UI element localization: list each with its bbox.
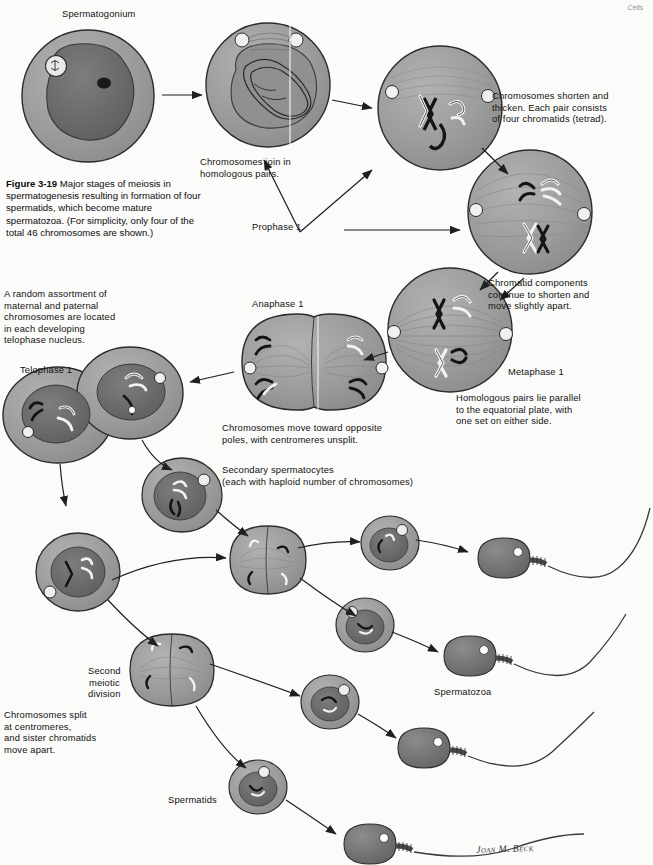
spermatid-1 [361, 516, 419, 570]
figure-caption: Figure 3-19 Major stages of meiosis in s… [6, 178, 202, 239]
arrow-spermatocyte-b-to-division-a [112, 557, 226, 580]
spermatozoon-1 [478, 508, 650, 578]
label-chromosomes-join: Chromosomes join in homologous pairs. [200, 156, 291, 179]
arrow-division-b-to-spermatid-4 [196, 706, 246, 768]
cell-secondary-spermatocyte-a [142, 458, 222, 532]
spermatozoon-3 [398, 712, 594, 768]
arrow-telophase-to-spermatocyte-b [60, 464, 66, 506]
label-metaphase-1: Metaphase 1 [508, 366, 564, 378]
arrow-division-a-to-spermatid-2 [300, 578, 356, 616]
label-chromosomes-split: Chromosomes split at centromeres, and si… [4, 709, 96, 755]
label-secondary-spermatocytes: Secondary spermatocytes (each with haplo… [222, 464, 413, 487]
label-spermatozoa: Spermatozoa [434, 686, 491, 698]
label-chromosomes-shorten: Chromosomes shorten and thicken. Each pa… [492, 90, 609, 125]
label-second-meiotic-division: Second meiotic division [88, 665, 121, 700]
label-spermatids: Spermatids [168, 794, 217, 806]
cell-spermatogonium [22, 30, 154, 162]
cell-anaphase1 [242, 314, 388, 410]
cell-secondary-spermatocyte-b [36, 533, 120, 611]
arrow-spermatid-1-to-spermatozoon-1 [416, 540, 468, 552]
cell-prophase1-early [206, 23, 330, 147]
label-spermatogonium: Spermatogonium [62, 8, 136, 20]
label-random-assortment: A random assortment of maternal and pate… [4, 288, 115, 346]
label-homologous-pairs: Homologous pairs lie parallel to the equ… [456, 392, 581, 427]
label-anaphase-1: Anaphase 1 [252, 298, 304, 310]
spermatozoon-4 [344, 824, 584, 864]
arrow-anaphase-to-telophase [190, 372, 234, 382]
figure-page: Cells Spermatogonium Figure 3-19 Major s… [0, 0, 653, 865]
spermatozoon-2 [444, 614, 626, 676]
cell-prophase1-tetrad [378, 46, 502, 170]
figure-number: Figure 3-19 [6, 178, 57, 189]
arrow-prophase-early-to-tetrad [332, 100, 372, 108]
spermatid-2 [336, 598, 394, 652]
arrow-spermatocyte-a-to-division-a [216, 510, 248, 536]
arrow-division-a-to-spermatid-1 [298, 542, 360, 548]
label-chromatid-components: Chromatid components continue to shorten… [488, 277, 589, 312]
cell-second-meiotic-division-b [130, 634, 214, 706]
spermatid-4 [229, 760, 287, 814]
spermatid-3 [301, 675, 359, 729]
label-chromosomes-move: Chromosomes move toward opposite poles, … [222, 422, 382, 445]
cell-prophase1-diakinesis [468, 150, 592, 274]
arrow-spermatid-3-to-spermatozoon-3 [358, 714, 396, 738]
label-telophase-1: Telophase 1 [20, 364, 72, 376]
cell-second-meiotic-division-a [230, 526, 306, 594]
running-head: Cells [627, 4, 643, 11]
arrow-spermatid-2-to-spermatozoon-2 [392, 632, 438, 652]
label-prophase-1: Prophase 1 [252, 221, 301, 233]
arrow-spermatid-4-to-spermatozoon-4 [286, 800, 336, 834]
arrow-division-b-to-spermatid-3 [210, 664, 300, 696]
artist-signature: Joan M. Beck [476, 842, 534, 855]
arrow-prophase-label-to-tetrad [300, 170, 372, 232]
